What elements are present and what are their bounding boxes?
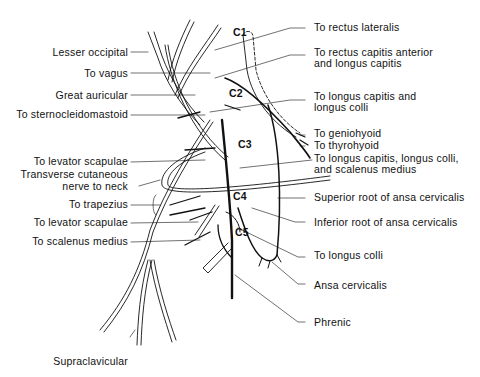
label-supraclavicular: Supraclavicular: [53, 355, 128, 367]
label-to-rectus-lateralis: To rectus lateralis: [314, 21, 400, 33]
label-lesser-occipital: Lesser occipital: [52, 46, 128, 58]
label-to-longus-capitis-2: longus colli: [314, 101, 368, 113]
segment-c2: C2: [229, 87, 243, 99]
label-to-levator-scapulae-2: To levator scapulae: [34, 216, 128, 228]
label-transverse-cutaneous-1: Transverse cutaneous: [21, 168, 129, 180]
segment-c4: C4: [233, 190, 247, 202]
label-transverse-cutaneous-2: nerve to neck: [62, 180, 128, 192]
label-to-thyrohyoid: To thyrohyoid: [314, 139, 379, 151]
label-ansa-cervicalis: Ansa cervicalis: [314, 279, 387, 291]
label-superior-root-ansa: Superior root of ansa cervicalis: [314, 191, 465, 203]
segment-c3: C3: [238, 138, 252, 150]
label-phrenic: Phrenic: [314, 316, 351, 328]
label-to-geniohyoid: To geniohyoid: [314, 127, 381, 139]
label-to-rectus-capitis-2: and longus capitis: [314, 57, 402, 69]
label-to-longus-capitis-scalenus-2: and scalenus medius: [314, 163, 416, 175]
label-to-trapezius: To trapezius: [69, 198, 128, 210]
label-to-vagus: To vagus: [84, 67, 128, 79]
label-to-levator-scapulae-1: To levator scapulae: [34, 155, 128, 167]
segment-c1: C1: [233, 26, 247, 38]
label-great-auricular: Great auricular: [56, 89, 128, 101]
label-to-longus-colli: To longus colli: [314, 249, 383, 261]
label-to-sternocleidomastoid: To sternocleidomastoid: [16, 108, 128, 120]
label-to-scalenus-medius: To scalenus medius: [32, 235, 128, 247]
segment-c5: C5: [235, 226, 249, 238]
label-inferior-root-ansa: Inferior root of ansa cervicalis: [314, 216, 458, 228]
